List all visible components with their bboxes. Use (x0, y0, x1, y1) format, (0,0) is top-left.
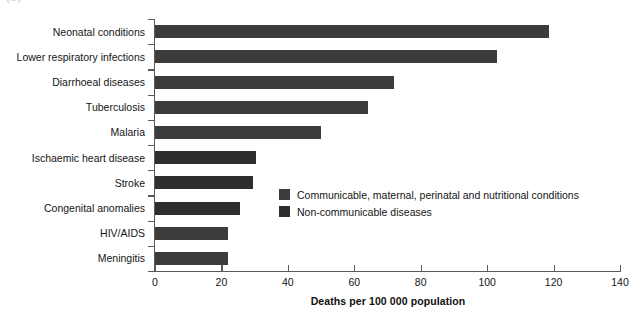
y-axis-tick (148, 246, 154, 247)
x-axis-line (155, 271, 621, 272)
y-axis-label: HIV/AIDS (100, 227, 145, 239)
y-axis-tick (148, 69, 154, 70)
bar (155, 252, 228, 265)
bar (155, 76, 394, 89)
x-axis-tick (487, 265, 488, 272)
x-axis-title: Deaths per 100 000 population (155, 295, 621, 307)
legend-swatch-non-communicable (279, 206, 290, 217)
y-axis-tick (148, 271, 154, 272)
bar (155, 101, 368, 114)
y-axis-tick (148, 170, 154, 171)
legend-label-non-communicable: Non-communicable diseases (297, 206, 432, 218)
x-axis-tick (354, 265, 355, 272)
bar (155, 151, 256, 164)
legend-item-non-communicable: Non-communicable diseases (279, 204, 579, 219)
x-axis-tick-label: 100 (478, 276, 496, 288)
y-axis-label: Stroke (115, 177, 145, 189)
y-axis-tick (148, 19, 154, 20)
x-axis-tick-label: 40 (282, 276, 294, 288)
x-axis-tick (288, 265, 289, 272)
y-axis-label: Malaria (111, 126, 145, 138)
y-axis-tick (148, 95, 154, 96)
x-axis-tick-label: 120 (545, 276, 563, 288)
x-axis-tick (155, 265, 156, 272)
legend-item-communicable: Communicable, maternal, perinatal and nu… (279, 187, 579, 202)
y-axis-tick (148, 44, 154, 45)
y-axis-tick (148, 120, 154, 121)
x-axis-tick-label: 80 (415, 276, 427, 288)
y-axis-label: Tuberculosis (86, 101, 145, 113)
y-axis-tick (148, 145, 154, 146)
x-axis-tick (421, 265, 422, 272)
bar (155, 227, 228, 240)
y-axis-label: Lower respiratory infections (17, 51, 145, 63)
bar (155, 25, 549, 38)
bar (155, 50, 497, 63)
legend-swatch-communicable (279, 189, 290, 200)
x-axis-tick (221, 265, 222, 272)
bar-chart: (b) Neonatal conditionsLower respiratory… (0, 0, 644, 333)
x-axis-tick (554, 265, 555, 272)
y-axis-category-labels: Neonatal conditionsLower respiratory inf… (0, 19, 150, 271)
bar (155, 202, 240, 215)
y-axis-label: Ischaemic heart disease (32, 152, 145, 164)
x-axis-tick-label: 60 (348, 276, 360, 288)
legend: Communicable, maternal, perinatal and nu… (279, 187, 579, 221)
y-axis-tick (148, 195, 154, 196)
y-axis-tick (148, 221, 154, 222)
x-axis-tick-label: 0 (152, 276, 158, 288)
y-axis-label: Congenital anomalies (44, 202, 145, 214)
y-axis-label: Meningitis (98, 252, 145, 264)
plot-area (155, 19, 620, 271)
y-axis-label: Neonatal conditions (53, 26, 145, 38)
bar (155, 126, 321, 139)
x-axis-tick-label: 20 (216, 276, 228, 288)
y-axis-label: Diarrhoeal diseases (52, 76, 145, 88)
legend-label-communicable: Communicable, maternal, perinatal and nu… (297, 189, 579, 201)
x-axis-tick-label: 140 (611, 276, 629, 288)
bar (155, 176, 253, 189)
panel-label: (b) (6, 0, 22, 3)
x-axis-tick (620, 265, 621, 272)
